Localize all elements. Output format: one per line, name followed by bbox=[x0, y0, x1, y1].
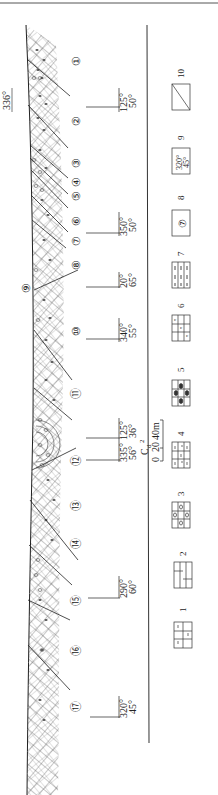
layer-label: ⑧ bbox=[70, 260, 82, 270]
svg-text:65°: 65° bbox=[127, 273, 138, 287]
svg-text:⑦: ⑦ bbox=[177, 219, 188, 228]
layer-label: ⑭ bbox=[70, 538, 82, 549]
legend-item-7: 7 bbox=[172, 251, 190, 288]
svg-text:40m: 40m bbox=[150, 422, 161, 440]
legend-item-5: 5 bbox=[172, 367, 190, 406]
layer-label: ④ bbox=[70, 177, 82, 187]
svg-text:50°: 50° bbox=[127, 94, 138, 108]
svg-text:336°: 336° bbox=[1, 91, 12, 110]
layer-label: ⑰ bbox=[70, 701, 82, 712]
layer-label: ⑪ bbox=[70, 388, 82, 399]
scale-bar: 0 20 40m bbox=[150, 420, 163, 462]
svg-text:45°: 45° bbox=[182, 157, 191, 168]
svg-text:20: 20 bbox=[150, 442, 161, 452]
legend-item-1: 1 bbox=[174, 608, 192, 649]
layer-label: ⑮ bbox=[70, 595, 82, 606]
section-separator bbox=[147, 25, 149, 743]
svg-text:6: 6 bbox=[176, 303, 186, 308]
svg-text:55°: 55° bbox=[127, 324, 138, 338]
svg-text:1: 1 bbox=[178, 608, 188, 613]
layer-label: ① bbox=[70, 56, 82, 66]
svg-text:2: 2 bbox=[178, 552, 188, 557]
legend-item-2: 2 bbox=[174, 552, 192, 589]
geologic-cross-section: 336° ① ② ③ ④ ⑤ ⑥ ⑦ ⑧ ⑨ ⑩ ⑪ ⑫ ⑬ ⑭ ⑮ ⑯ ⑰ 1… bbox=[0, 0, 218, 795]
legend-item-9: 320° 45° 9 bbox=[172, 135, 191, 174]
svg-text:10: 10 bbox=[176, 69, 186, 79]
layer-label: ⑬ bbox=[70, 500, 82, 511]
layer-label: ⑨ bbox=[20, 283, 32, 293]
legend-item-3: 3 bbox=[172, 491, 190, 528]
legend-item-4: 4 bbox=[172, 431, 190, 468]
svg-text:36°: 36° bbox=[127, 424, 138, 438]
svg-text:50°: 50° bbox=[127, 218, 138, 232]
attitude-markers: 125° 50° 350° 50° 20° 65° 340° 55° 335° … bbox=[86, 88, 153, 718]
svg-text:60°: 60° bbox=[127, 580, 138, 594]
svg-text:45°: 45° bbox=[127, 700, 138, 714]
svg-text:3: 3 bbox=[176, 491, 186, 496]
layer-label: ⑥ bbox=[70, 216, 82, 226]
legend-item-6: c c c 6 bbox=[172, 303, 190, 341]
layer-label: ⑦ bbox=[70, 236, 82, 246]
svg-text:7: 7 bbox=[176, 251, 186, 256]
svg-text:56°: 56° bbox=[127, 446, 138, 460]
svg-text:5: 5 bbox=[176, 367, 186, 372]
svg-text:0: 0 bbox=[150, 457, 161, 462]
svg-text:9: 9 bbox=[176, 135, 186, 140]
svg-text:2: 2 bbox=[138, 439, 146, 443]
strike-label: 336° bbox=[1, 88, 12, 112]
layer-label: ⑫ bbox=[70, 455, 82, 466]
layer-label: ⑯ bbox=[70, 645, 82, 656]
svg-text:4: 4 bbox=[176, 431, 186, 436]
svg-text:8: 8 bbox=[176, 195, 186, 200]
layer-label: ③ bbox=[70, 158, 82, 168]
legend-item-10: 10 bbox=[172, 69, 190, 111]
layer-label: ② bbox=[70, 116, 82, 126]
legend: 10 320° 45° 9 ⑦ 8 7 c c bbox=[172, 69, 192, 649]
layer-label: ⑩ bbox=[70, 326, 82, 336]
legend-item-8: ⑦ 8 bbox=[172, 195, 190, 236]
layer-label: ⑤ bbox=[70, 191, 82, 201]
